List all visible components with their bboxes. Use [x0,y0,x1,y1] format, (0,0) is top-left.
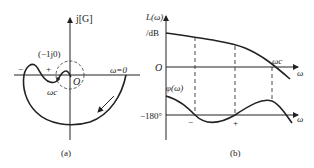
sign-plus-b: + [233,118,238,128]
caption-b: (b) [230,148,241,158]
sign-minus-b: − [188,117,193,127]
panel-a-nyquist: j[G] (−1j0) O ω=0 ωc − + (a) [14,13,140,158]
imag-axis-label: j[G] [75,13,93,24]
omega-label-top: ω [297,68,303,78]
magnitude-unit-label: /dB [146,28,159,38]
panel-b-bode: L(ω) /dB O ωc ω φ(ω) −180° ω − + (b) [140,12,303,158]
magnitude-axis-label: L(ω) [145,12,163,22]
direction-arrow [98,96,114,112]
omega-label-bottom: ω [297,114,303,124]
phase-curve [166,96,292,123]
sign-plus-a: + [46,64,51,74]
sign-minus-a: − [18,64,23,74]
caption-a: (a) [61,148,71,158]
phase-ref-label: −180° [140,111,163,121]
origin-label-b: O [155,62,162,73]
crossover-point [56,77,60,81]
origin-label: O [73,76,80,87]
phase-axis-label: φ(ω) [166,83,183,93]
omega-zero-label: ω=0 [110,65,127,75]
point-label: (−1j0) [38,49,61,59]
crossover-label-b: ωc [272,56,282,66]
crossover-label: ωc [47,87,57,97]
nyquist-bode-figure: j[G] (−1j0) O ω=0 ωc − + (a) [0,0,314,168]
